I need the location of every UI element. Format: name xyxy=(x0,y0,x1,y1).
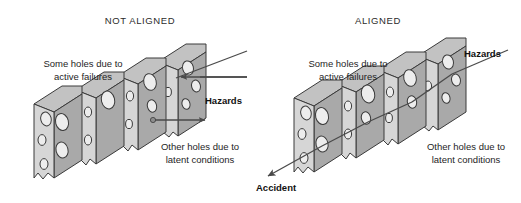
latent-conditions-line1-right: Other holes due to xyxy=(427,141,505,152)
hazards-label-right: Hazards xyxy=(464,48,501,59)
accident-label: Accident xyxy=(256,182,297,193)
panel-title-aligned: ALIGNED xyxy=(355,15,401,26)
cheese-slice-front-aligned xyxy=(294,80,342,173)
active-failures-line1: Some holes due to xyxy=(43,58,122,69)
cheese-slice-front xyxy=(34,86,82,179)
swiss-cheese-model-figure: NOT ALIGNED xyxy=(0,0,521,203)
latent-conditions-line2-right: latent conditions xyxy=(432,154,501,165)
panel-title-not-aligned: NOT ALIGNED xyxy=(105,15,175,26)
active-failures-line2: active failures xyxy=(54,71,112,82)
cheese-slice-third xyxy=(118,58,166,151)
active-failures-line1-right: Some holes due to xyxy=(308,58,387,69)
hazards-label-left: Hazards xyxy=(205,95,242,106)
active-failures-line2-right: active failures xyxy=(319,71,377,82)
latent-conditions-line1: Other holes due to xyxy=(161,141,239,152)
latent-conditions-line2: latent conditions xyxy=(166,154,235,165)
cheese-slice-second xyxy=(76,72,124,165)
